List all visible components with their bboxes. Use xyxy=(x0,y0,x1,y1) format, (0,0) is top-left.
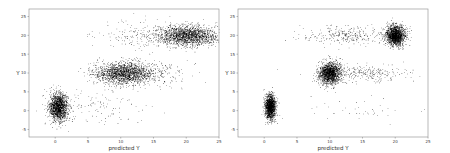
y-tick-label: 10 xyxy=(230,70,236,75)
x-tick-label: 5 xyxy=(296,139,299,144)
y-axis-label: Y xyxy=(224,70,229,76)
data-points xyxy=(36,14,219,133)
y-tick-label: 25 xyxy=(21,14,27,19)
y-tick-label: 15 xyxy=(230,52,236,57)
y-tick-label: 20 xyxy=(21,33,27,38)
scatter-panel-left: 0510152025-50510152025predicted YY xyxy=(0,0,225,153)
scatter-plot-right: 0510152025-50510152025predicted YY xyxy=(209,0,434,153)
x-tick-label: 20 xyxy=(184,139,190,144)
x-tick-label: 20 xyxy=(393,139,399,144)
x-tick-label: 25 xyxy=(425,139,431,144)
x-tick-label: 5 xyxy=(87,139,90,144)
scatter-panel-right: 0510152025-50510152025predicted YY xyxy=(209,0,434,153)
y-axis-label: Y xyxy=(15,70,20,76)
y-tick-label: 25 xyxy=(230,14,236,19)
x-tick-label: 15 xyxy=(151,139,157,144)
scatter-points xyxy=(36,14,219,133)
y-tick-label: 0 xyxy=(23,108,26,113)
y-tick-label: 20 xyxy=(230,33,236,38)
x-tick-label: 0 xyxy=(263,139,266,144)
y-tick-label: 5 xyxy=(232,89,235,94)
x-tick-label: 15 xyxy=(360,139,366,144)
y-tick-label: 15 xyxy=(21,52,27,57)
scatter-plot-left: 0510152025-50510152025predicted YY xyxy=(0,0,225,153)
data-points xyxy=(262,18,425,125)
scatter-points xyxy=(262,18,425,125)
y-tick-label: 10 xyxy=(21,70,27,75)
x-axis-label: predicted Y xyxy=(108,145,140,152)
y-tick-label: -5 xyxy=(22,127,26,132)
y-tick-label: -5 xyxy=(231,127,235,132)
x-axis-label: predicted Y xyxy=(317,145,349,152)
x-tick-label: 0 xyxy=(54,139,57,144)
x-tick-label: 10 xyxy=(118,139,124,144)
y-tick-label: 0 xyxy=(232,108,235,113)
y-tick-label: 5 xyxy=(23,89,26,94)
x-tick-label: 10 xyxy=(327,139,333,144)
